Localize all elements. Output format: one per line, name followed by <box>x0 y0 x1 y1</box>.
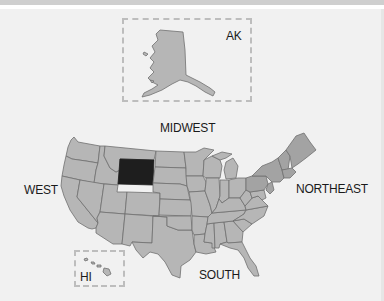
alaska-island <box>143 52 148 56</box>
us-map <box>0 0 384 301</box>
region-label-northeast: NORTHEAST <box>296 183 368 195</box>
state-arizona[interactable] <box>96 212 125 244</box>
region-label-south: SOUTH <box>199 269 240 281</box>
state-utah[interactable] <box>100 184 127 214</box>
state-new-mexico[interactable] <box>122 214 153 246</box>
state-kansas[interactable] <box>159 199 192 216</box>
state-wyoming[interactable] <box>118 159 154 185</box>
region-label-midwest: MIDWEST <box>160 122 215 134</box>
state-north-dakota[interactable] <box>155 151 186 168</box>
state-pennsylvania[interactable] <box>246 176 268 192</box>
state-alaska[interactable] <box>142 30 215 97</box>
state-iowa[interactable] <box>186 176 206 192</box>
state-maine[interactable] <box>286 133 316 168</box>
region-label-west: WEST <box>24 184 58 196</box>
alaska-label: AK <box>226 30 242 42</box>
state-michigan[interactable] <box>224 158 238 179</box>
hawaii-label: HI <box>80 271 92 283</box>
state-massachusetts-ct-ri[interactable] <box>282 168 296 178</box>
state-colorado[interactable] <box>125 192 160 216</box>
